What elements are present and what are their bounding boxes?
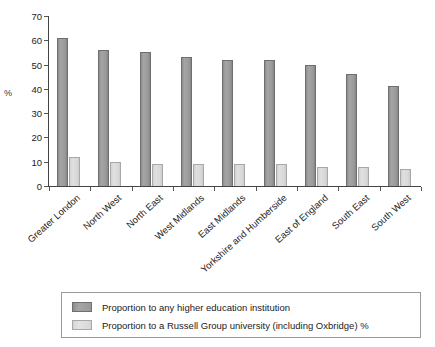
bar bbox=[317, 167, 328, 186]
legend-swatch-russell-group bbox=[72, 320, 92, 330]
bar bbox=[388, 86, 399, 186]
x-axis-line bbox=[48, 186, 421, 187]
x-axis-tick-mark bbox=[132, 187, 133, 191]
y-axis-ticks: 706050403020100 bbox=[14, 0, 42, 200]
bar-group bbox=[297, 16, 338, 186]
y-axis-tick-label: 70 bbox=[16, 12, 42, 21]
bar-group bbox=[380, 16, 421, 186]
bar bbox=[358, 167, 369, 186]
x-axis-tick-mark bbox=[421, 187, 422, 191]
bar bbox=[140, 52, 151, 186]
legend-label-russell-group: Proportion to a Russell Group university… bbox=[102, 320, 369, 331]
x-axis-tick-label: South East bbox=[329, 192, 371, 231]
x-axis-tick-mark bbox=[49, 187, 50, 191]
bar bbox=[98, 50, 109, 186]
x-axis-tick-label: South West bbox=[369, 192, 413, 233]
x-axis-tick-mark bbox=[297, 187, 298, 191]
y-axis-tick-label: 40 bbox=[16, 84, 42, 93]
bar-group bbox=[49, 16, 90, 186]
legend-label-any-he: Proportion to any higher education insti… bbox=[102, 302, 290, 313]
y-axis-tick-mark bbox=[44, 16, 48, 17]
bar bbox=[57, 38, 68, 186]
y-axis-title: % bbox=[4, 88, 12, 98]
x-axis-tick-mark bbox=[380, 187, 381, 191]
x-axis-tick-label: Greater London bbox=[25, 192, 82, 245]
legend-item-any-he: Proportion to any higher education insti… bbox=[72, 300, 290, 314]
y-axis-tick-mark bbox=[44, 40, 48, 41]
y-axis-tick-label: 20 bbox=[16, 133, 42, 142]
y-axis-tick-label: 60 bbox=[16, 36, 42, 45]
bar-group bbox=[256, 16, 297, 186]
bar bbox=[234, 164, 245, 186]
bar-group bbox=[214, 16, 255, 186]
bar-group bbox=[132, 16, 173, 186]
bar bbox=[152, 164, 163, 186]
y-axis-tick-label: 30 bbox=[16, 109, 42, 118]
x-axis-tick-mark bbox=[338, 187, 339, 191]
bar bbox=[193, 164, 204, 186]
x-axis-tick-mark bbox=[256, 187, 257, 191]
bar-group bbox=[338, 16, 379, 186]
y-axis-tick-mark bbox=[44, 89, 48, 90]
x-axis-tick-label: North West bbox=[81, 192, 124, 232]
bar bbox=[69, 157, 80, 186]
y-axis-tick-mark bbox=[44, 113, 48, 114]
bar bbox=[346, 74, 357, 186]
x-axis-tick-mark bbox=[214, 187, 215, 191]
y-axis-tick-label: 10 bbox=[16, 157, 42, 166]
legend-swatch-any-he bbox=[72, 302, 92, 312]
bar bbox=[222, 60, 233, 186]
plot-area bbox=[49, 16, 421, 186]
y-axis-tick-mark bbox=[44, 162, 48, 163]
bar bbox=[264, 60, 275, 186]
bar bbox=[181, 57, 192, 186]
bar bbox=[110, 162, 121, 186]
bar bbox=[305, 65, 316, 186]
x-axis-tick-mark bbox=[173, 187, 174, 191]
bar bbox=[276, 164, 287, 186]
bar-group bbox=[173, 16, 214, 186]
x-axis-tick-mark bbox=[90, 187, 91, 191]
legend: Proportion to any higher education insti… bbox=[61, 292, 421, 338]
bar-chart: % 706050403020100 Greater LondonNorth We… bbox=[0, 0, 435, 347]
x-axis-labels: Greater LondonNorth WestNorth EastWest M… bbox=[0, 190, 435, 280]
legend-item-russell-group: Proportion to a Russell Group university… bbox=[72, 318, 369, 332]
y-axis-tick-mark bbox=[44, 137, 48, 138]
y-axis-tick-mark bbox=[44, 186, 48, 187]
y-axis-tick-mark bbox=[44, 65, 48, 66]
bar-group bbox=[90, 16, 131, 186]
x-axis-tick-label: North East bbox=[124, 192, 165, 230]
y-axis-tick-label: 50 bbox=[16, 60, 42, 69]
bar bbox=[400, 169, 411, 186]
